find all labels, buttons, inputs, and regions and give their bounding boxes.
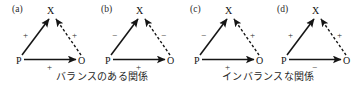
edge-o-to-x bbox=[321, 19, 346, 55]
sign-p-x: − bbox=[112, 31, 117, 40]
caption-balanced: バランスのある関係 bbox=[56, 72, 149, 82]
sign-o-x: − bbox=[161, 31, 166, 40]
sign-p-x: − bbox=[201, 31, 206, 40]
node-o: O bbox=[256, 56, 263, 66]
node-o: O bbox=[78, 56, 85, 66]
node-x: X bbox=[136, 6, 143, 16]
triad-b: (b) X P O − bbox=[95, 0, 185, 70]
balance-theory-figure: (a) X P O + bbox=[0, 0, 362, 94]
triad-a: (a) X P O + bbox=[6, 0, 96, 70]
node-p: P bbox=[16, 56, 22, 66]
node-p: P bbox=[281, 56, 287, 66]
node-o: O bbox=[343, 56, 350, 66]
edge-o-to-x bbox=[145, 19, 170, 55]
node-o: O bbox=[167, 56, 174, 66]
sign-o-x: + bbox=[72, 31, 77, 40]
caption-row: バランスのある関係 インバランスな関係 bbox=[0, 72, 362, 94]
node-p: P bbox=[105, 56, 111, 66]
node-p: P bbox=[194, 56, 200, 66]
triad-row: (a) X P O + bbox=[0, 0, 362, 70]
caption-imbalanced: インバランスな関係 bbox=[222, 72, 315, 82]
sign-p-o: + bbox=[47, 63, 52, 72]
triad-d: (d) X P O + bbox=[271, 0, 361, 70]
sign-o-x: + bbox=[250, 31, 255, 40]
node-x: X bbox=[225, 6, 232, 16]
node-x: X bbox=[47, 6, 54, 16]
edge-o-to-x bbox=[234, 19, 259, 55]
sign-o-x: + bbox=[337, 31, 342, 40]
triad-c: (c) X P O − bbox=[184, 0, 274, 70]
edge-o-to-x bbox=[56, 19, 81, 55]
sign-p-x: + bbox=[23, 31, 28, 40]
sign-p-x: + bbox=[288, 31, 293, 40]
node-x: X bbox=[312, 6, 319, 16]
